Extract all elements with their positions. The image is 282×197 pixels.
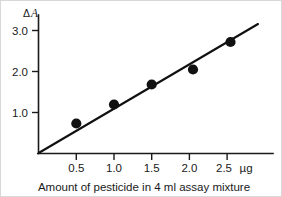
y-tick-label-2: 2.0 — [12, 66, 28, 78]
y-axis-label-symbol: A — [30, 7, 39, 19]
chart-figure: Δ A 3.0 2.0 1.0 0.5 1.0 1.5 2.0 2.5 µg — [0, 0, 282, 197]
x-axis-title: Amount of pesticide in 4 ml assay mixtur… — [38, 181, 250, 193]
x-tick-label-1.5: 1.5 — [144, 162, 160, 174]
x-tick-label-0.5: 0.5 — [68, 162, 84, 174]
data-point — [71, 118, 81, 128]
data-point — [109, 99, 119, 109]
x-tick-label-1.0: 1.0 — [106, 162, 122, 174]
data-point — [188, 64, 198, 74]
x-tick-label-2.5: 2.5 — [216, 162, 232, 174]
calibration-scatter-plot: Δ A 3.0 2.0 1.0 0.5 1.0 1.5 2.0 2.5 µg — [1, 1, 282, 197]
y-tick-label-3: 3.0 — [12, 25, 28, 37]
data-point — [147, 79, 157, 89]
y-axis-label-delta: Δ — [23, 7, 30, 19]
y-tick-label-1: 1.0 — [12, 107, 28, 119]
x-axis-unit-label: µg — [240, 162, 253, 174]
x-tick-label-2.0: 2.0 — [181, 162, 197, 174]
data-point — [225, 37, 235, 47]
